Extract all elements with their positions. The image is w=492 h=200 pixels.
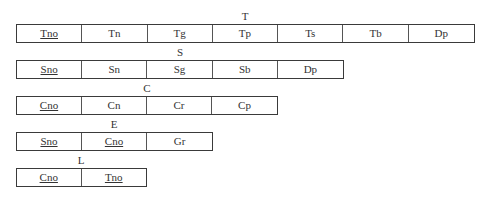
attribute-cell: Dp bbox=[278, 61, 343, 78]
attribute-cell: Gr bbox=[147, 133, 212, 150]
attribute-cell: Ts bbox=[278, 25, 343, 42]
relation-label-l: L bbox=[61, 154, 101, 166]
attribute-cell: Tno bbox=[17, 25, 82, 42]
attribute-cell: Tn bbox=[82, 25, 147, 42]
attribute-cell: Sno bbox=[17, 133, 82, 150]
relation-s: Sno Sn Sg Sb Dp bbox=[16, 60, 344, 79]
relation-label-e: E bbox=[94, 118, 134, 130]
attribute-cell: Cno bbox=[17, 97, 82, 114]
attribute-cell: Tno bbox=[82, 169, 146, 186]
relation-label-c: C bbox=[127, 82, 167, 94]
attribute-cell: Cn bbox=[82, 97, 147, 114]
attribute-cell: Sg bbox=[147, 61, 212, 78]
attribute-cell: Cno bbox=[82, 133, 147, 150]
relation-e: Sno Cno Gr bbox=[16, 132, 213, 151]
relation-c: Cno Cn Cr Cp bbox=[16, 96, 278, 115]
attribute-cell: Dp bbox=[409, 25, 474, 42]
attribute-cell: Cno bbox=[17, 169, 82, 186]
attribute-cell: Cp bbox=[212, 97, 277, 114]
attribute-cell: Tp bbox=[213, 25, 278, 42]
relation-t: Tno Tn Tg Tp Ts Tb Dp bbox=[16, 24, 475, 43]
attribute-cell: Cr bbox=[147, 97, 212, 114]
attribute-cell: Sb bbox=[213, 61, 278, 78]
relation-l: Cno Tno bbox=[16, 168, 147, 187]
attribute-cell: Tb bbox=[343, 25, 408, 42]
relation-label-t: T bbox=[225, 10, 265, 22]
relation-label-s: S bbox=[160, 46, 200, 58]
attribute-cell: Sn bbox=[82, 61, 147, 78]
attribute-cell: Tg bbox=[148, 25, 213, 42]
attribute-cell: Sno bbox=[17, 61, 82, 78]
